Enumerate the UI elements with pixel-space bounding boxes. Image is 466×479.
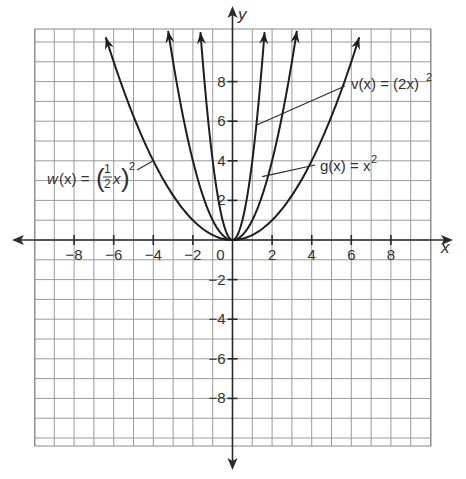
y-tick-label: 4 [217, 152, 225, 169]
y-tick-label: 8 [217, 73, 225, 90]
label-w-exp: 2 [129, 160, 135, 172]
x-tick-label: 8 [387, 246, 395, 263]
label-w-fn: w [47, 170, 59, 187]
graph-canvas: −8−6−4−202468−8−6−4−22468 x y w (x) = ( … [0, 0, 466, 479]
label-v-exp: 2 [426, 71, 432, 83]
leader-w [137, 161, 153, 170]
label-g-text: g(x) = x [320, 157, 371, 174]
y-tick-label: −6 [208, 350, 225, 367]
label-w-den: 2 [104, 177, 111, 191]
x-tick-label: −8 [66, 246, 83, 263]
x-tick-label: −2 [184, 246, 201, 263]
label-v-text: v(x) = (2x) [351, 75, 419, 92]
y-tick-label: −8 [208, 389, 225, 406]
x-tick-label: 6 [347, 246, 355, 263]
x-tick-label: −6 [105, 246, 122, 263]
x-tick-label: 0 [216, 246, 224, 263]
x-tick-label: −4 [145, 246, 162, 263]
label-g: g(x) = x 2 [320, 153, 377, 174]
x-axis-label: x [440, 238, 450, 257]
label-g-exp: 2 [371, 153, 377, 165]
annotations [137, 86, 345, 177]
label-w-eq: (x) = [59, 170, 90, 187]
y-tick-label: −2 [208, 271, 225, 288]
y-tick-label: 6 [217, 112, 225, 129]
label-w: w (x) = ( 1 2 x ) 2 [47, 160, 135, 193]
y-axis-label: y [237, 5, 248, 24]
label-w-var: x [112, 170, 121, 187]
x-tick-label: 2 [268, 246, 276, 263]
y-tick-label: −4 [208, 310, 225, 327]
label-w-num: 1 [104, 162, 111, 176]
x-tick-label: 4 [308, 246, 316, 263]
